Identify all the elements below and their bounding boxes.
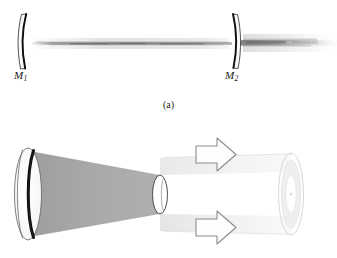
- mirror-m1-b: [15, 148, 42, 240]
- optics-figure: M1 M2 (a): [0, 0, 337, 258]
- converging-light-cone: [33, 152, 160, 236]
- panel-b: M1 M2: [0, 130, 337, 258]
- mirror-m2-b: [153, 175, 168, 214]
- mirror-m2-a: [233, 14, 241, 69]
- panel-b-drawing: [0, 130, 337, 258]
- beam-cross-section-ring: [279, 153, 304, 235]
- intracavity-beam: [32, 41, 232, 45]
- mirror-m1-a: [18, 14, 26, 69]
- panel-a-caption: (a): [0, 100, 337, 110]
- panel-a: M1 M2 (a): [0, 0, 337, 128]
- mirror-label-m1-panel-a: M1: [14, 70, 27, 81]
- mirror-label-m2-panel-a: M2: [225, 70, 238, 81]
